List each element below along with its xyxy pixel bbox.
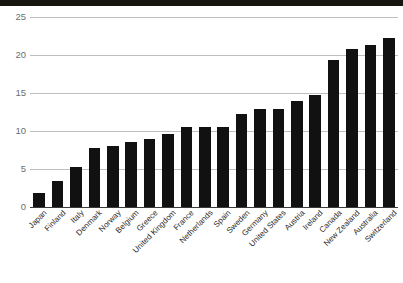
bar-chart-figure: 0510152025 JapanFinlandItalyDenmarkNorwa… <box>0 0 403 283</box>
bar <box>346 49 357 207</box>
bar <box>383 38 394 207</box>
bars-layer <box>30 17 398 207</box>
bar <box>199 127 210 207</box>
scan-artifact-band <box>0 0 403 6</box>
y-tick-label-25: 25 <box>4 12 26 22</box>
bar <box>254 109 265 207</box>
bar <box>33 193 44 207</box>
bar <box>273 109 284 207</box>
bar <box>328 60 339 207</box>
y-axis: 0510152025 <box>0 17 26 207</box>
bar <box>309 95 320 207</box>
bar <box>181 127 192 207</box>
bar <box>365 45 376 207</box>
y-tick-label-20: 20 <box>4 50 26 60</box>
bar <box>107 146 118 207</box>
bar <box>291 101 302 207</box>
x-tick-label: Austria <box>283 209 306 232</box>
bar <box>70 167 81 207</box>
y-tick-label-5: 5 <box>4 164 26 174</box>
bar <box>52 181 63 207</box>
bar <box>125 142 136 207</box>
y-tick-label-15: 15 <box>4 88 26 98</box>
x-axis-category-labels: JapanFinlandItalyDenmarkNorwayBelgiumGre… <box>30 209 398 283</box>
bar <box>89 148 100 207</box>
x-axis-line <box>30 207 398 208</box>
bar <box>162 134 173 207</box>
bar <box>236 114 247 207</box>
bar <box>144 139 155 207</box>
bar <box>217 127 228 207</box>
y-tick-label-0: 0 <box>4 202 26 212</box>
y-tick-label-10: 10 <box>4 126 26 136</box>
plot-area <box>30 17 398 207</box>
